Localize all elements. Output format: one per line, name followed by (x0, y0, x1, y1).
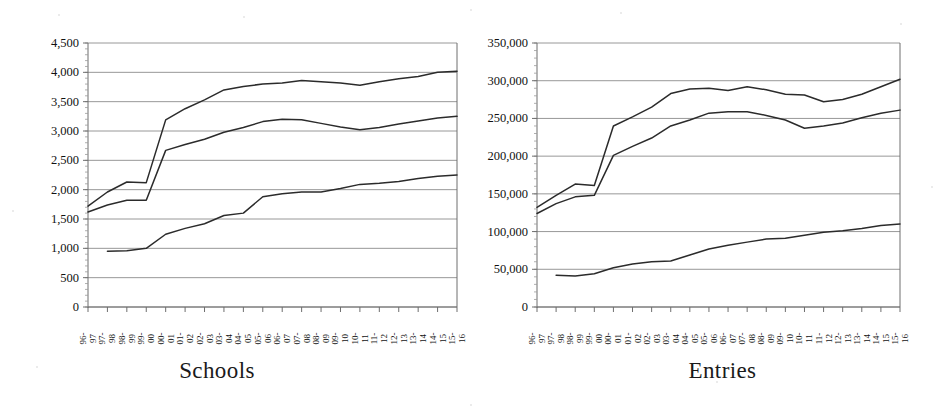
gridlines (88, 43, 457, 307)
x-tick-label: 08-09 (757, 329, 776, 349)
x-tick-label: 99-00 (137, 329, 156, 349)
x-tick-label: 09-10 (776, 329, 795, 349)
x-tick-label: 96-97 (528, 329, 547, 349)
x-tick-label: 99-00 (585, 329, 604, 349)
x-tick-label: 00-01 (156, 329, 175, 349)
y-tick-label: 50,000 (470, 262, 528, 277)
x-tick-label: 11-12 (370, 329, 389, 349)
x-tick-label: 00-01 (604, 329, 623, 349)
x-tick-label: 02-03 (642, 329, 661, 349)
scan-speck (620, 12, 622, 14)
x-tick-label: 07-08 (738, 329, 757, 349)
x-tick-label: 04-05 (680, 329, 699, 349)
x-tick-label: 96-97 (79, 329, 98, 349)
x-tick-label: 08-09 (312, 329, 331, 349)
scan-speck (716, 381, 718, 383)
x-tick-label: 04-05 (234, 329, 253, 349)
chart-panel-entries: 050,000100,000150,000200,000250,000300,0… (470, 0, 951, 416)
y-axis (532, 43, 537, 308)
series-line-2 (537, 110, 900, 213)
x-axis (537, 307, 900, 312)
x-tick-label: 14-15 (871, 329, 890, 349)
y-tick-label: 0 (470, 300, 528, 315)
scan-speck (36, 366, 38, 368)
series-line-1 (537, 79, 900, 207)
x-tick-label: 98-99 (117, 329, 136, 349)
scan-speck (12, 210, 14, 212)
scan-speck (58, 14, 60, 16)
y-tick-label: 3,500 (0, 94, 79, 109)
x-tick-label: 15-16 (448, 329, 467, 349)
x-tick-label: 98-99 (566, 329, 585, 349)
y-tick-label: 3,000 (0, 124, 79, 139)
y-tick-label: 1,000 (0, 241, 79, 256)
x-tick-label: 01-02 (176, 329, 195, 349)
scan-speck (243, 16, 245, 18)
y-tick-label: 0 (0, 300, 79, 315)
x-tick-label: 15-16 (891, 329, 910, 349)
y-tick-label: 300,000 (470, 73, 528, 88)
figure-canvas: 05001,0001,5002,0002,5003,0003,5004,0004… (0, 0, 951, 416)
series-line-3 (107, 175, 457, 251)
y-tick-label: 4,000 (0, 65, 79, 80)
y-tick-label: 4,500 (0, 36, 79, 51)
y-tick-label: 250,000 (470, 111, 528, 126)
y-tick-label: 2,500 (0, 153, 79, 168)
gridlines (537, 43, 900, 307)
x-tick-label: 13-14 (409, 329, 428, 349)
x-tick-label: 05-06 (699, 329, 718, 349)
x-tick-label: 10-11 (795, 329, 814, 349)
scan-speck (470, 9, 472, 11)
x-tick-label: 07-08 (292, 329, 311, 349)
x-tick-label: 13-14 (852, 329, 871, 349)
chart-panel-schools: 05001,0001,5002,0002,5003,0003,5004,0004… (0, 0, 470, 416)
y-tick-label: 200,000 (470, 149, 528, 164)
y-axis (83, 43, 88, 308)
x-tick-label: 03-04 (214, 329, 233, 349)
scan-speck (900, 23, 902, 25)
scan-speck (931, 186, 933, 188)
y-tick-label: 500 (0, 270, 79, 285)
y-tick-label: 150,000 (470, 186, 528, 201)
y-tick-label: 100,000 (470, 224, 528, 239)
x-tick-label: 01-02 (623, 329, 642, 349)
x-tick-label: 03-04 (661, 329, 680, 349)
x-tick-label: 05-06 (253, 329, 272, 349)
chart-title-schools: Schools (0, 358, 452, 384)
x-tick-label: 06-07 (719, 329, 738, 349)
x-tick-label: 10-11 (350, 329, 369, 349)
x-axis (88, 307, 457, 312)
x-tick-label: 97-98 (98, 329, 117, 349)
y-tick-label: 350,000 (470, 36, 528, 51)
y-tick-label: 2,000 (0, 182, 79, 197)
x-tick-label: 02-03 (195, 329, 214, 349)
x-tick-label: 11-12 (814, 329, 833, 349)
x-tick-label: 97-98 (547, 329, 566, 349)
x-tick-label: 06-07 (273, 329, 292, 349)
series-line-1 (88, 71, 457, 206)
x-tick-label: 14-15 (428, 329, 447, 349)
x-tick-label: 12-13 (389, 329, 408, 349)
chart-plot-entries (470, 0, 940, 360)
x-tick-label: 09-10 (331, 329, 350, 349)
x-tick-label: 12-13 (833, 329, 852, 349)
y-tick-label: 1,500 (0, 212, 79, 227)
scan-speck (470, 404, 472, 406)
